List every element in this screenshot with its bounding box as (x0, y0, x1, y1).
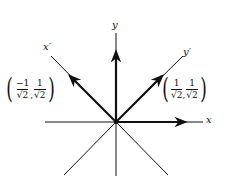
fraction-y: 1 √2 (34, 79, 45, 100)
close-paren: ) (48, 75, 55, 103)
x-axis-label: x (206, 115, 212, 125)
y-axis-label: y (112, 20, 118, 30)
fraction-y: 1 √2 (186, 79, 197, 100)
fraction-x: 1 √2 (171, 79, 182, 100)
vector-e1-prime (70, 76, 116, 122)
origin-point (114, 120, 118, 124)
close-paren: ) (200, 75, 207, 103)
open-paren: ( (6, 75, 13, 103)
y-prime-axis-lower (64, 122, 116, 175)
open-paren: ( (162, 75, 169, 103)
y-prime-axis-label: y′ (183, 47, 191, 57)
rotated-axes-diagram: y x x′ y′ ( −1 √2 , 1 √2 ) ( 1 √2 , 1 √2… (0, 0, 229, 189)
fraction-x: −1 √2 (15, 79, 30, 100)
x-prime-axis-label: x′ (43, 42, 51, 52)
e1-prime-coordinates: ( −1 √2 , 1 √2 ) (4, 75, 57, 103)
vector-e2-prime (116, 76, 162, 122)
x-prime-axis-lower (116, 122, 168, 175)
e2-prime-coordinates: ( 1 √2 , 1 √2 ) (160, 75, 209, 103)
